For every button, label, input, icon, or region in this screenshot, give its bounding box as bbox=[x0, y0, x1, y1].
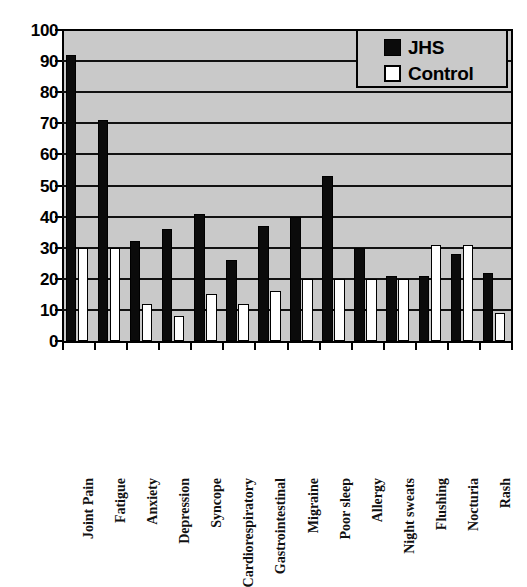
bar-control bbox=[495, 313, 506, 341]
bar-jhs bbox=[322, 176, 333, 341]
x-tick-mark bbox=[511, 341, 513, 350]
y-tick-label: 20 bbox=[12, 270, 58, 287]
y-tick-mark bbox=[55, 60, 62, 62]
x-tick-mark bbox=[62, 341, 64, 350]
x-tick-label: Rash bbox=[499, 478, 513, 508]
x-tick-mark bbox=[254, 341, 256, 350]
y-tick-label: 30 bbox=[12, 239, 58, 256]
x-tick-label: Syncope bbox=[210, 478, 224, 528]
bar-control bbox=[398, 279, 409, 341]
bar-group bbox=[287, 30, 319, 341]
bar-jhs bbox=[130, 241, 141, 341]
legend-entry-jhs: JHS bbox=[384, 34, 506, 60]
y-tick-mark bbox=[55, 153, 62, 155]
x-tick-mark bbox=[319, 341, 321, 350]
bar-jhs bbox=[98, 120, 109, 341]
x-tick-label: Allergy bbox=[371, 478, 385, 522]
y-tick-label: 40 bbox=[12, 208, 58, 225]
bar-jhs bbox=[483, 273, 494, 341]
y-tick-mark bbox=[55, 29, 62, 31]
x-tick-mark bbox=[94, 341, 96, 350]
bar-jhs bbox=[386, 276, 397, 341]
y-tick-label: 50 bbox=[12, 177, 58, 194]
bar-group bbox=[190, 30, 222, 341]
x-tick-label: Anxiety bbox=[146, 478, 160, 525]
bar-control bbox=[463, 245, 474, 341]
y-tick-mark bbox=[55, 91, 62, 93]
legend: JHS Control bbox=[356, 29, 508, 88]
bar-control bbox=[334, 279, 345, 341]
bar-jhs bbox=[194, 214, 205, 342]
bar-control bbox=[78, 248, 89, 341]
bar-control bbox=[238, 304, 249, 341]
legend-swatch-icon-jhs bbox=[384, 39, 401, 56]
bar-jhs bbox=[226, 260, 237, 341]
bar-group bbox=[158, 30, 190, 341]
x-tick-mark bbox=[479, 341, 481, 350]
x-tick-label: Night sweats bbox=[403, 478, 417, 554]
bar-control bbox=[270, 291, 281, 341]
x-tick-mark bbox=[126, 341, 128, 350]
x-tick-label: Migraine bbox=[307, 478, 321, 533]
x-tick-mark bbox=[190, 341, 192, 350]
y-tick-label: 0 bbox=[12, 333, 58, 350]
x-tick-label: Gastrointestinal bbox=[274, 478, 288, 574]
bar-control bbox=[174, 316, 185, 341]
y-tick-label: 60 bbox=[12, 146, 58, 163]
x-tick-label: Nocturia bbox=[467, 478, 481, 531]
y-tick-label: 10 bbox=[12, 301, 58, 318]
bar-group bbox=[94, 30, 126, 341]
y-tick-label: 100 bbox=[12, 22, 58, 39]
x-tick-mark bbox=[222, 341, 224, 350]
legend-entry-control: Control bbox=[384, 60, 506, 86]
bar-control bbox=[431, 245, 442, 341]
y-axis: 1009080706050403020100 bbox=[0, 0, 58, 488]
bar-jhs bbox=[162, 229, 173, 341]
x-tick-label: Depression bbox=[178, 478, 192, 544]
bar-group bbox=[222, 30, 254, 341]
bar-group bbox=[319, 30, 351, 341]
x-tick-mark bbox=[158, 341, 160, 350]
legend-label-control: Control bbox=[408, 64, 473, 83]
x-axis-labels: Joint PainFatigueAnxietyDepressionSyncop… bbox=[62, 352, 511, 482]
x-tick-mark bbox=[383, 341, 385, 350]
y-tick-label: 80 bbox=[12, 84, 58, 101]
bar-control bbox=[206, 294, 217, 341]
y-tick-mark bbox=[55, 247, 62, 249]
x-tick-label: Flushing bbox=[435, 478, 449, 530]
bar-group bbox=[62, 30, 94, 341]
bar-control bbox=[302, 279, 313, 341]
y-tick-mark bbox=[55, 185, 62, 187]
y-tick-mark bbox=[55, 122, 62, 124]
legend-label-jhs: JHS bbox=[408, 38, 444, 57]
x-tick-label: Poor sleep bbox=[339, 478, 353, 540]
bar-jhs bbox=[419, 276, 430, 341]
bar-jhs bbox=[258, 226, 269, 341]
bar-group bbox=[254, 30, 286, 341]
bar-control bbox=[366, 279, 377, 341]
plot-frame-right bbox=[511, 29, 513, 343]
bar-jhs bbox=[290, 217, 301, 341]
y-tick-mark bbox=[55, 309, 62, 311]
bar-jhs bbox=[354, 248, 365, 341]
legend-swatch-icon-control bbox=[384, 65, 401, 82]
x-tick-mark bbox=[447, 341, 449, 350]
y-tick-mark bbox=[55, 278, 62, 280]
bar-jhs bbox=[66, 55, 77, 341]
x-tick-label: Fatigue bbox=[114, 478, 128, 523]
x-tick-mark bbox=[287, 341, 289, 350]
bar-control bbox=[142, 304, 153, 341]
x-tick-mark bbox=[351, 341, 353, 350]
bar-jhs bbox=[451, 254, 462, 341]
x-tick-mark bbox=[415, 341, 417, 350]
y-tick-label: 70 bbox=[12, 115, 58, 132]
bar-control bbox=[110, 248, 121, 341]
y-tick-label: 90 bbox=[12, 53, 58, 70]
x-tick-label: Cardiorespiratory bbox=[242, 478, 256, 587]
y-tick-mark bbox=[55, 340, 62, 342]
x-tick-label: Joint Pain bbox=[82, 478, 96, 539]
bar-group bbox=[126, 30, 158, 341]
y-tick-mark bbox=[55, 216, 62, 218]
